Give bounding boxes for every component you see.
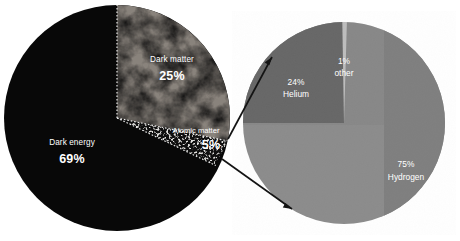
label-dark-matter-pct: 25% <box>159 69 185 83</box>
label-dark-matter-name: Dark matter <box>150 55 194 64</box>
label-other-name: other <box>334 68 353 78</box>
label-hydrogen-pct: 75% <box>398 159 415 169</box>
universe-composition-figure: Dark matter 25% Dark energy 69% Atomic m… <box>0 0 460 241</box>
label-dark-energy-name: Dark energy <box>49 138 96 147</box>
charts-canvas: Dark matter 25% Dark energy 69% Atomic m… <box>0 0 460 241</box>
label-other-pct: 1% <box>338 56 351 66</box>
right-pie-grain <box>243 22 445 224</box>
label-helium-name: Helium <box>283 89 309 99</box>
label-atomic-matter-name: Atomic matter <box>173 126 220 135</box>
label-helium-pct: 24% <box>288 77 305 87</box>
label-atomic-matter-pct: 5% <box>202 138 220 152</box>
label-dark-energy-pct: 69% <box>59 152 85 166</box>
label-hydrogen-name: Hydrogen <box>388 172 425 182</box>
